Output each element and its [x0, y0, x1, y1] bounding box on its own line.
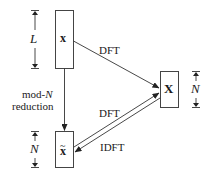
tilde-accent: ~: [60, 140, 65, 151]
mod-n-label: mod-N: [22, 89, 53, 100]
dimension-N-label-X: N: [191, 83, 200, 94]
mod-text: mod-: [22, 88, 45, 100]
edge-label-idft: IDFT: [100, 142, 124, 153]
node-X-label: X: [164, 83, 173, 94]
dimension-N-label-xtilde: N: [30, 143, 39, 154]
edge-label-dft-top: DFT: [99, 45, 120, 56]
node-x-label: x: [60, 33, 66, 44]
reduction-label: reduction: [12, 101, 54, 112]
arrow-xtilde-to-X: [74, 93, 159, 147]
dft-diagram: x X x ~ DFT DFT IDFT mod-N reduction L N…: [0, 0, 210, 177]
edge-label-dft-bottom: DFT: [99, 108, 120, 119]
mod-n-italic: N: [45, 88, 52, 100]
dimension-L-label: L: [30, 33, 37, 44]
